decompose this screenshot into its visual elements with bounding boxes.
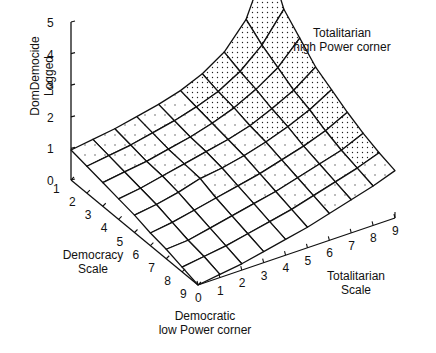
democracy-tick-label: 1 xyxy=(53,182,60,196)
totalitarian-tick-label: 5 xyxy=(304,254,311,268)
totalitarian-axis-label: Totalitarian Scale xyxy=(316,269,396,297)
democracy-tick-label: 7 xyxy=(148,261,155,275)
z-tick-label: 3 xyxy=(47,79,54,93)
democracy-tick-label: 8 xyxy=(164,274,171,288)
totalitarian-tick-label: 1 xyxy=(217,284,224,298)
totalitarian-tick-label: 6 xyxy=(326,246,333,260)
z-axis-label: DomDemocide Logged xyxy=(28,31,56,121)
totalitarian-tick-label: 3 xyxy=(261,269,268,283)
democracy-tick-label: 9 xyxy=(180,287,187,301)
democracy-tick-label: 3 xyxy=(85,208,92,222)
democratic-corner-annotation: Democratic low Power corner xyxy=(150,309,260,337)
totalitarian-tick-label: 7 xyxy=(348,239,355,253)
z-tick-label: 4 xyxy=(47,48,54,62)
totalitarian-tick-label: 4 xyxy=(283,261,290,275)
z-tick-label: 2 xyxy=(47,111,54,125)
democracy-tick-label: 5 xyxy=(117,235,124,249)
totalitarian-corner-annotation: Totalitarian high Power corner xyxy=(282,26,402,54)
totalitarian-tick-label: 2 xyxy=(239,276,246,290)
z-tick-label: 1 xyxy=(47,142,54,156)
totalitarian-tick-label: 9 xyxy=(392,224,399,238)
totalitarian-tick-label: 8 xyxy=(370,231,377,245)
totalitarian-tick-label: 0 xyxy=(195,291,202,305)
democracy-tick-label: 4 xyxy=(101,221,108,235)
democracy-axis-label: Democracy Scale xyxy=(58,248,128,276)
z-tick-label: 5 xyxy=(47,16,54,30)
democracy-tick-label: 2 xyxy=(69,195,76,209)
democracy-tick-label: 6 xyxy=(132,248,139,262)
